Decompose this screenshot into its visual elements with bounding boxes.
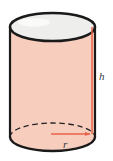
cylinder-figure: h r bbox=[0, 0, 113, 161]
radius-label: r bbox=[63, 139, 67, 150]
height-label: h bbox=[99, 71, 105, 82]
top-circular-face bbox=[10, 13, 95, 41]
lateral-surface bbox=[10, 27, 95, 151]
top-face-highlight bbox=[18, 18, 50, 26]
cylinder-drawing bbox=[0, 0, 113, 161]
